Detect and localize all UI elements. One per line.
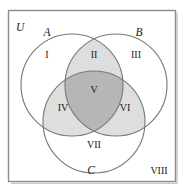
- venn-diagram-figure: U A B C I II III IV V VI VII VIII: [0, 0, 188, 194]
- set-label-C: C: [87, 164, 95, 176]
- region-label-V: V: [90, 84, 98, 95]
- venn-diagram-canvas: U A B C I II III IV V VI VII VIII: [0, 0, 188, 194]
- region-label-IV: IV: [58, 102, 69, 113]
- region-label-III: III: [131, 49, 141, 60]
- universe-label: U: [16, 21, 25, 33]
- set-label-B: B: [135, 26, 142, 38]
- region-label-VI: VI: [120, 102, 131, 113]
- set-label-A: A: [42, 26, 51, 38]
- region-label-VII: VII: [87, 139, 101, 150]
- region-label-II: II: [91, 49, 98, 60]
- region-label-VIII: VIII: [150, 165, 167, 176]
- region-label-I: I: [45, 49, 48, 60]
